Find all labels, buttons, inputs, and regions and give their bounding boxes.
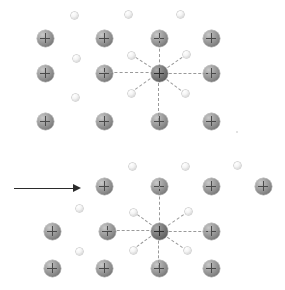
positive-ion	[96, 30, 113, 47]
free-electron	[71, 12, 78, 19]
panel-top-caption: lattice-at-rest	[0, 0, 1, 1]
positive-ion	[151, 113, 168, 130]
free-electron	[182, 163, 189, 170]
free-electron	[185, 208, 192, 215]
speck	[236, 131, 238, 133]
free-electron	[234, 162, 241, 169]
positive-ion	[96, 178, 113, 195]
positive-ion	[203, 30, 220, 47]
positive-ion	[37, 65, 54, 82]
positive-ion	[96, 113, 113, 130]
free-electron	[129, 163, 136, 170]
center-positive-ion	[151, 65, 168, 82]
positive-ion	[151, 260, 168, 277]
free-electron	[128, 90, 135, 97]
free-electron	[184, 247, 191, 254]
free-electron	[76, 248, 83, 255]
positive-ion	[37, 30, 54, 47]
positive-ion	[44, 260, 61, 277]
free-electron	[183, 51, 190, 58]
positive-ion	[96, 65, 113, 82]
positive-ion	[203, 113, 220, 130]
free-electron	[177, 11, 184, 18]
lattice-diagram: Crystal lattice of positive ions with fr…	[0, 0, 285, 290]
positive-ion	[99, 223, 116, 240]
panel-bottom-caption: lattice-displaced	[0, 145, 1, 146]
free-electron	[182, 90, 189, 97]
positive-ion	[44, 223, 61, 240]
positive-ion	[37, 113, 54, 130]
center-positive-ion	[151, 223, 168, 240]
free-electron	[73, 55, 80, 62]
free-electron	[125, 11, 132, 18]
free-electron	[72, 94, 79, 101]
direction-arrow-head	[73, 184, 81, 192]
positive-ion	[203, 178, 220, 195]
free-electron	[76, 205, 83, 212]
free-electron	[128, 52, 135, 59]
positive-ion	[96, 260, 113, 277]
direction-arrow-line	[14, 188, 74, 189]
free-electron	[130, 247, 137, 254]
positive-ion	[203, 260, 220, 277]
positive-ion	[255, 178, 272, 195]
free-electron	[130, 209, 137, 216]
